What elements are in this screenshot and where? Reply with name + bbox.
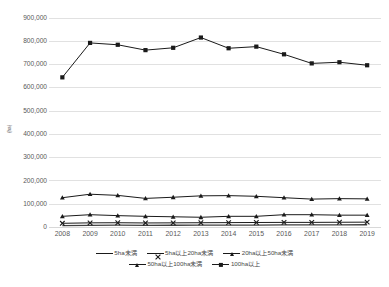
data-point-marker — [337, 60, 341, 64]
legend-item-0[interactable]: 5ha未満 — [96, 250, 137, 257]
legend-label: 5ha未満 — [114, 250, 136, 256]
data-point-marker — [365, 63, 369, 67]
series-2 — [60, 212, 370, 219]
series-line — [62, 225, 367, 226]
x-axis-tick-label: 2017 — [298, 231, 326, 238]
series-4 — [60, 35, 369, 79]
series-line — [62, 222, 367, 223]
x-axis-tick-label: 2014 — [215, 231, 243, 238]
x-axis-tick-label: 2009 — [76, 231, 104, 238]
legend-item-1[interactable]: 5ha以上20ha未満 — [147, 250, 214, 257]
data-point-marker — [60, 75, 64, 79]
series-3 — [60, 192, 370, 201]
legend-key-triangle-icon — [223, 250, 240, 257]
series-line — [62, 215, 367, 218]
legend-item-3[interactable]: 50ha以上100ha未満 — [129, 261, 202, 268]
series-layer — [60, 35, 370, 225]
legend-label: 50ha以上100ha未満 — [147, 261, 202, 267]
legend-key-triangle-icon — [129, 261, 146, 268]
x-axis-tick-label: 2012 — [159, 231, 187, 238]
x-axis-tick-label: 2013 — [187, 231, 215, 238]
data-point-marker — [254, 45, 258, 49]
data-point-marker — [282, 52, 286, 56]
data-point-marker — [171, 46, 175, 50]
data-point-marker — [143, 48, 147, 52]
chart-legend: 5ha未満5ha以上20ha未満20ha以上50ha未満50ha以上100ha未… — [0, 248, 389, 276]
legend-key-square-icon — [212, 261, 229, 268]
legend-row: 50ha以上100ha未満100ha以上 — [0, 259, 389, 270]
x-axis-tick-label: 2011 — [131, 231, 159, 238]
x-axis-tick-label: 2016 — [270, 231, 298, 238]
data-point-marker — [227, 46, 231, 50]
data-point-marker — [88, 41, 92, 45]
x-axis-tick-label: 2008 — [48, 231, 76, 238]
series-line — [62, 38, 367, 78]
legend-key-line — [96, 250, 113, 257]
legend-item-4[interactable]: 100ha以上 — [212, 261, 260, 268]
legend-label: 100ha以上 — [231, 261, 260, 267]
legend-label: 20ha以上50ha未満 — [242, 250, 294, 256]
x-axis-tick-label: 2015 — [242, 231, 270, 238]
data-point-marker — [310, 61, 314, 65]
x-axis-tick-label: 2019 — [353, 231, 381, 238]
legend-row: 5ha未満5ha以上20ha未満20ha以上50ha未満 — [0, 248, 389, 259]
data-point-marker — [116, 43, 120, 47]
series-0 — [62, 225, 367, 226]
plot-area — [0, 0, 389, 287]
line-chart: (ha) 0100,000200,000300,000400,000500,00… — [0, 0, 389, 287]
series-line — [62, 194, 367, 199]
x-axis-tick-label: 2010 — [104, 231, 132, 238]
legend-item-2[interactable]: 20ha以上50ha未満 — [223, 250, 293, 257]
data-point-marker — [199, 35, 203, 39]
x-axis-tick-label: 2018 — [325, 231, 353, 238]
legend-label: 5ha以上20ha未満 — [165, 250, 213, 256]
legend-key-x-icon — [147, 250, 164, 257]
